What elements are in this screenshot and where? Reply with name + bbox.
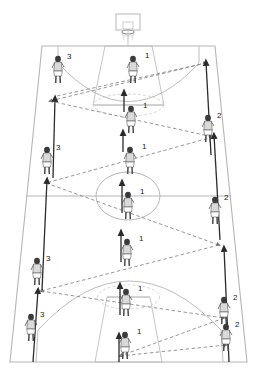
player-head	[44, 147, 50, 153]
player-torso	[124, 198, 132, 207]
player-shorts	[27, 329, 35, 334]
player-number-label: 3	[40, 310, 45, 319]
player-torso	[43, 153, 51, 162]
player-head	[127, 147, 133, 153]
player-shorts	[126, 162, 134, 167]
player-number-label: 3	[67, 52, 72, 61]
player-head	[55, 56, 61, 62]
basketball-hoop	[116, 14, 140, 46]
player-number-label: 1	[142, 142, 147, 151]
player-torso	[27, 320, 35, 329]
player-head	[212, 197, 218, 203]
player-head	[205, 115, 211, 121]
player-shorts	[127, 121, 135, 126]
player-shorts	[204, 130, 212, 135]
player-number-label: 3	[56, 143, 61, 152]
player-torso	[122, 295, 130, 304]
player-torso	[54, 62, 62, 71]
player-torso	[211, 203, 219, 212]
player-number-label: 2	[224, 193, 229, 202]
player-shorts	[129, 71, 137, 76]
player-shorts	[220, 312, 228, 317]
player-shorts	[123, 254, 131, 259]
player-number-label: 1	[143, 101, 148, 110]
player-torso	[220, 303, 228, 312]
player-shorts	[211, 212, 219, 217]
player-number-label: 2	[235, 320, 240, 329]
player-shorts	[33, 273, 41, 278]
player-number-label: 1	[138, 284, 143, 293]
player-head	[122, 332, 128, 338]
player-head	[123, 289, 129, 295]
player-head	[130, 56, 136, 62]
player-number-label: 1	[137, 327, 142, 336]
player-head	[223, 324, 229, 330]
player-torso	[127, 112, 135, 121]
player-torso	[126, 153, 134, 162]
player-torso	[123, 245, 131, 254]
basketball-drill-diagram: 111111133332222	[0, 0, 257, 391]
player-shorts	[121, 347, 129, 352]
player-shorts	[43, 162, 51, 167]
player-shorts	[122, 304, 130, 309]
player-torso	[33, 264, 41, 273]
player-head	[125, 192, 131, 198]
player-shorts	[222, 339, 230, 344]
player-number-label: 2	[217, 111, 222, 120]
player-head	[128, 106, 134, 112]
player-head	[34, 258, 40, 264]
player-shorts	[54, 71, 62, 76]
player-torso	[204, 121, 212, 130]
player-number-label: 1	[139, 234, 144, 243]
player-number-label: 1	[145, 51, 150, 60]
player-head	[28, 314, 34, 320]
player-number-label: 3	[46, 254, 51, 263]
player-head	[221, 297, 227, 303]
player-shorts	[124, 207, 132, 212]
player-torso	[129, 62, 137, 71]
player-number-label: 2	[233, 293, 238, 302]
player-head	[124, 239, 130, 245]
player-number-label: 1	[140, 187, 145, 196]
player-torso	[121, 338, 129, 347]
player-torso	[222, 330, 230, 339]
court-svg: 111111133332222	[0, 0, 257, 391]
